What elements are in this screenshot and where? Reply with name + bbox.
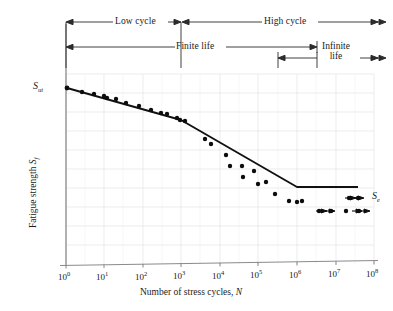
x-tick-0-mantissa: 10 (58, 272, 67, 282)
annotation-label-high-cycle: High cycle (264, 16, 306, 26)
x-tick-1-mantissa: 10 (96, 272, 105, 282)
x-tick-label-4: 104 (212, 269, 224, 281)
x-tick-7-exponent: 7 (337, 267, 340, 274)
annotation-label-infinite-life: Infinite life (322, 41, 350, 61)
x-tick-5-exponent: 5 (259, 268, 262, 275)
y-axis-title-var: S (28, 159, 38, 164)
y-axis-title-text: Fatigue strength (28, 167, 38, 228)
annotation-label-finite-life: Finite life (176, 41, 214, 51)
x-tick-6-mantissa: 10 (289, 270, 298, 280)
x-tick-6-exponent: 6 (298, 268, 301, 275)
x-tick-label-1: 101 (96, 270, 108, 282)
x-tick-7-mantissa: 10 (328, 269, 337, 279)
marker-label-se: Se (372, 190, 380, 203)
x-tick-label-2: 102 (135, 270, 147, 282)
marker-label-sut: Sut (33, 80, 43, 93)
x-axis-title-text: Number of stress cycles, (140, 287, 233, 297)
se-subscript: e (377, 196, 380, 203)
x-tick-label-5: 105 (250, 268, 262, 280)
x-tick-label-3: 103 (173, 269, 185, 281)
x-tick-1-exponent: 1 (105, 270, 108, 277)
y-axis-title: Fatigue strength Sf (28, 158, 40, 228)
x-tick-0-exponent: 0 (67, 270, 70, 277)
x-tick-3-exponent: 3 (182, 269, 185, 276)
x-tick-label-6: 106 (289, 268, 301, 280)
x-tick-label-7: 107 (328, 267, 340, 279)
x-tick-label-8: 108 (366, 267, 378, 279)
infinite-life-line2: life (330, 51, 343, 61)
infinite-life-line1: Infinite (322, 41, 350, 51)
x-tick-8-mantissa: 10 (366, 269, 375, 279)
x-tick-4-mantissa: 10 (212, 271, 221, 281)
sut-subscript: ut (38, 86, 43, 93)
y-axis-title-var-sub: f (33, 158, 40, 160)
x-tick-label-0: 100 (58, 270, 70, 282)
x-axis-title-var: N (236, 287, 242, 297)
x-tick-2-exponent: 2 (144, 270, 147, 277)
x-tick-2-mantissa: 10 (135, 272, 144, 282)
x-tick-5-mantissa: 10 (250, 270, 259, 280)
x-tick-4-exponent: 4 (221, 269, 224, 276)
x-axis-title: Number of stress cycles, N (140, 287, 242, 297)
x-tick-3-mantissa: 10 (173, 271, 182, 281)
x-tick-8-exponent: 8 (375, 267, 378, 274)
annotation-label-low-cycle: Low cycle (115, 16, 156, 26)
